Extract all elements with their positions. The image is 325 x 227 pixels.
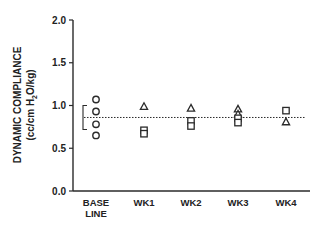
y-axis-ticks: 0.00.51.01.52.0 [52,15,73,197]
y-axis-title-group: DYNAMIC COMPLIANCE(cc/cm H2O/kg) [12,46,38,163]
triangle-marker [187,104,194,111]
y-tick-label: 0.5 [52,143,66,154]
x-category-label: LINE [85,208,107,219]
x-category-label: BASE [83,197,109,208]
x-category-label: WK1 [133,197,155,208]
y-tick-label: 1.0 [52,100,66,111]
square-marker [188,123,194,129]
y-tick-label: 2.0 [52,15,66,26]
y-axis-title-line2: (cc/cm H2O/kg) [25,69,38,140]
x-category-label: WK3 [227,197,248,208]
y-axis-title-line1: DYNAMIC COMPLIANCE [12,46,23,163]
x-category-label: WK4 [275,197,297,208]
circle-marker [93,96,99,102]
x-category-label: WK2 [180,197,201,208]
data-markers [93,96,290,138]
square-marker [235,119,241,125]
square-marker [283,107,289,113]
triangle-marker [140,103,147,110]
compliance-chart: DYNAMIC COMPLIANCE(cc/cm H2O/kg) 0.00.51… [0,0,325,227]
y-axis-title: DYNAMIC COMPLIANCE(cc/cm H2O/kg) [12,46,38,163]
circle-marker [93,121,99,127]
circle-marker [93,108,99,114]
square-marker [141,131,147,137]
y-tick-label: 0.0 [52,186,66,197]
x-axis-categories: BASELINEWK1WK2WK3WK4 [83,197,297,219]
triangle-marker [282,118,289,125]
y-tick-label: 1.5 [52,57,66,68]
circle-marker [93,132,99,138]
